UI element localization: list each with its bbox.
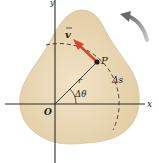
y-axis-label: y — [49, 0, 55, 7]
arc-length-label: Δs — [111, 75, 123, 85]
point-p — [94, 59, 99, 64]
origin-label: O — [44, 107, 52, 117]
angle-label: Δθ — [74, 89, 86, 99]
point-p-label: P — [100, 55, 108, 66]
rotation-direction-icon — [120, 11, 147, 40]
x-axis-label: x — [147, 99, 152, 109]
svg-text:v: v — [65, 29, 71, 40]
rotation-diagram: y x O P v r Δθ Δs — [0, 0, 159, 163]
